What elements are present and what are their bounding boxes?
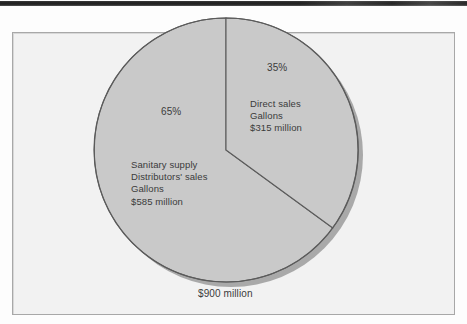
pie-total-caption: $900 million	[198, 288, 253, 300]
slice-percent-distributors-sales: 65%	[161, 106, 181, 118]
slice-label-direct-sales: Direct sales Gallons $315 million	[250, 98, 302, 135]
pie-chart: 35% Direct sales Gallons $315 million 65…	[0, 0, 467, 324]
slice-percent-direct-sales: 35%	[267, 62, 287, 74]
slice-label-distributors-sales: Sanitary supply Distributors' sales Gall…	[131, 159, 208, 208]
scanned-figure-page: 35% Direct sales Gallons $315 million 65…	[0, 0, 467, 324]
pie-chart-svg	[0, 0, 467, 324]
